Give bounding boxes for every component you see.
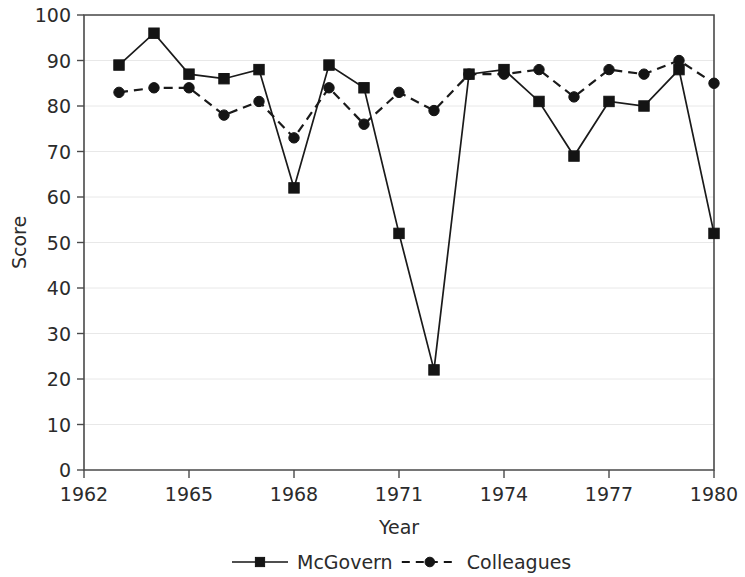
data-point-marker-colleagues	[534, 64, 544, 74]
x-tick-label: 1974	[480, 483, 528, 505]
y-axis-title: Score	[8, 216, 30, 269]
data-point-marker-colleagues	[254, 96, 264, 106]
y-tick-label: 30	[47, 323, 71, 345]
legend-marker-colleagues	[425, 557, 435, 567]
data-point-marker-colleagues	[219, 110, 229, 120]
legend-label-colleagues: Colleagues	[467, 551, 571, 573]
y-axis-ticks-group: 0102030405060708090100	[35, 4, 84, 481]
data-point-marker-colleagues	[674, 55, 684, 65]
y-tick-label: 100	[35, 4, 71, 26]
data-point-marker-colleagues	[149, 83, 159, 93]
data-point-marker-mcgovern	[709, 228, 719, 238]
y-tick-label: 80	[47, 95, 71, 117]
y-tick-label: 90	[47, 50, 71, 72]
x-tick-label: 1962	[60, 483, 108, 505]
data-point-marker-colleagues	[639, 69, 649, 79]
legend-label-mcgovern: McGovern	[297, 551, 393, 573]
data-point-marker-colleagues	[569, 92, 579, 102]
x-tick-label: 1971	[375, 483, 423, 505]
chart-legend: McGovernColleagues	[232, 551, 571, 573]
series-markers-group	[114, 28, 719, 375]
y-tick-label: 40	[47, 277, 71, 299]
line-chart: 0102030405060708090100 19621965196819711…	[0, 0, 745, 577]
data-point-marker-mcgovern	[114, 60, 124, 70]
chart-canvas: 0102030405060708090100 19621965196819711…	[0, 0, 745, 577]
data-point-marker-colleagues	[429, 105, 439, 115]
y-tick-label: 0	[59, 459, 71, 481]
data-point-marker-mcgovern	[289, 183, 299, 193]
x-tick-label: 1965	[165, 483, 213, 505]
x-axis-ticks-group: 1962196519681971197419771980	[60, 470, 738, 505]
data-point-marker-mcgovern	[359, 83, 369, 93]
y-tick-label: 10	[47, 414, 71, 436]
data-point-marker-colleagues	[394, 87, 404, 97]
series-lines-group	[119, 33, 714, 370]
data-point-marker-mcgovern	[219, 74, 229, 84]
x-tick-label: 1977	[585, 483, 633, 505]
data-point-marker-mcgovern	[569, 151, 579, 161]
data-point-marker-mcgovern	[184, 69, 194, 79]
gridlines-group	[84, 15, 714, 425]
y-tick-label: 60	[47, 186, 71, 208]
x-axis-title: Year	[378, 516, 419, 538]
y-tick-label: 70	[47, 141, 71, 163]
y-tick-label: 50	[47, 232, 71, 254]
data-point-marker-colleagues	[604, 64, 614, 74]
data-point-marker-mcgovern	[324, 60, 334, 70]
data-point-marker-colleagues	[289, 133, 299, 143]
data-point-marker-colleagues	[464, 69, 474, 79]
data-point-marker-mcgovern	[534, 96, 544, 106]
data-point-marker-mcgovern	[639, 101, 649, 111]
data-point-marker-mcgovern	[429, 365, 439, 375]
data-point-marker-colleagues	[709, 78, 719, 88]
y-tick-label: 20	[47, 368, 71, 390]
legend-marker-mcgovern	[255, 557, 264, 566]
data-point-marker-colleagues	[114, 87, 124, 97]
series-line-mcgovern	[119, 33, 714, 370]
data-point-marker-mcgovern	[149, 28, 159, 38]
x-tick-label: 1968	[270, 483, 318, 505]
series-line-colleagues	[119, 61, 714, 138]
data-point-marker-colleagues	[359, 119, 369, 129]
data-point-marker-colleagues	[499, 69, 509, 79]
data-point-marker-mcgovern	[394, 228, 404, 238]
data-point-marker-mcgovern	[254, 64, 264, 74]
data-point-marker-colleagues	[324, 83, 334, 93]
data-point-marker-colleagues	[184, 83, 194, 93]
x-tick-label: 1980	[690, 483, 738, 505]
data-point-marker-mcgovern	[604, 96, 614, 106]
